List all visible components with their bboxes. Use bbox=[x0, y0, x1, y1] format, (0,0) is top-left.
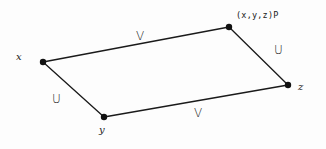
vertex-y-dot bbox=[101, 114, 107, 120]
vertex-y-label: y bbox=[99, 125, 105, 135]
edge-y-z-label: V bbox=[194, 107, 202, 119]
vertex-z-dot bbox=[285, 82, 291, 88]
edge-x-p-label: V bbox=[136, 30, 144, 42]
vertex-p-label: (x,y,z)P bbox=[236, 11, 279, 20]
vertex-p-dot bbox=[226, 24, 232, 30]
edge-x-y-label: U bbox=[52, 93, 61, 105]
vertex-x-dot bbox=[40, 59, 46, 65]
parallelogram-diagram bbox=[0, 0, 326, 149]
vertex-z-label: z bbox=[298, 82, 303, 92]
edge-p-z-label: U bbox=[274, 44, 283, 56]
edge-x-y bbox=[43, 62, 104, 117]
diagram-canvas: x y z (x,y,z)P V U V U bbox=[0, 0, 326, 149]
vertex-x-label: x bbox=[16, 52, 22, 62]
